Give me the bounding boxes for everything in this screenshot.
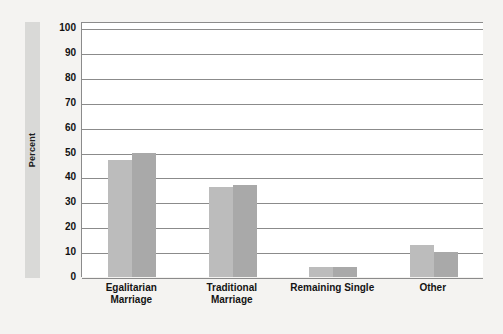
bar bbox=[108, 160, 132, 277]
y-tick-label: 60 bbox=[46, 123, 76, 133]
bar-group bbox=[183, 23, 284, 277]
bars-layer bbox=[82, 23, 483, 277]
y-tick-label: 70 bbox=[46, 98, 76, 108]
bar bbox=[333, 267, 357, 277]
x-axis-category-labels: EgalitarianMarriageTraditionalMarriageRe… bbox=[81, 282, 483, 322]
y-axis-title: Percent bbox=[25, 22, 40, 278]
x-category-label-line: Remaining Single bbox=[290, 282, 374, 293]
y-tick-label: 40 bbox=[46, 172, 76, 182]
x-category-label-line: Marriage bbox=[81, 294, 182, 306]
y-tick-label: 10 bbox=[46, 247, 76, 257]
x-category-label: TraditionalMarriage bbox=[182, 282, 283, 306]
bar bbox=[132, 153, 156, 278]
x-category-label: EgalitarianMarriage bbox=[81, 282, 182, 306]
y-axis-title-label: Percent bbox=[28, 133, 38, 167]
bar-group bbox=[82, 23, 183, 277]
x-category-label-line: Egalitarian bbox=[106, 282, 157, 293]
y-tick-label: 80 bbox=[46, 73, 76, 83]
axis-baseline bbox=[82, 278, 483, 279]
bar bbox=[309, 267, 333, 277]
y-axis-tick-labels: 1009080706050403020100 bbox=[46, 22, 76, 278]
y-tick-label: 50 bbox=[46, 148, 76, 158]
y-tick-label: 100 bbox=[46, 23, 76, 33]
x-category-label-line: Marriage bbox=[182, 294, 283, 306]
y-tick-label: 20 bbox=[46, 222, 76, 232]
x-category-label: Remaining Single bbox=[282, 282, 383, 294]
x-category-label: Other bbox=[383, 282, 484, 294]
bar bbox=[434, 252, 458, 277]
bar bbox=[410, 245, 434, 277]
bar bbox=[233, 185, 257, 277]
y-tick-label: 0 bbox=[46, 272, 76, 282]
plot-area bbox=[81, 22, 483, 277]
bar-group bbox=[283, 23, 384, 277]
bar bbox=[209, 187, 233, 277]
y-tick-label: 30 bbox=[46, 197, 76, 207]
bar-group bbox=[384, 23, 485, 277]
x-category-label-line: Other bbox=[419, 282, 446, 293]
y-tick-label: 90 bbox=[46, 48, 76, 58]
bar-chart-figure: Percent 1009080706050403020100 Egalitari… bbox=[0, 0, 503, 334]
x-category-label-line: Traditional bbox=[206, 282, 257, 293]
